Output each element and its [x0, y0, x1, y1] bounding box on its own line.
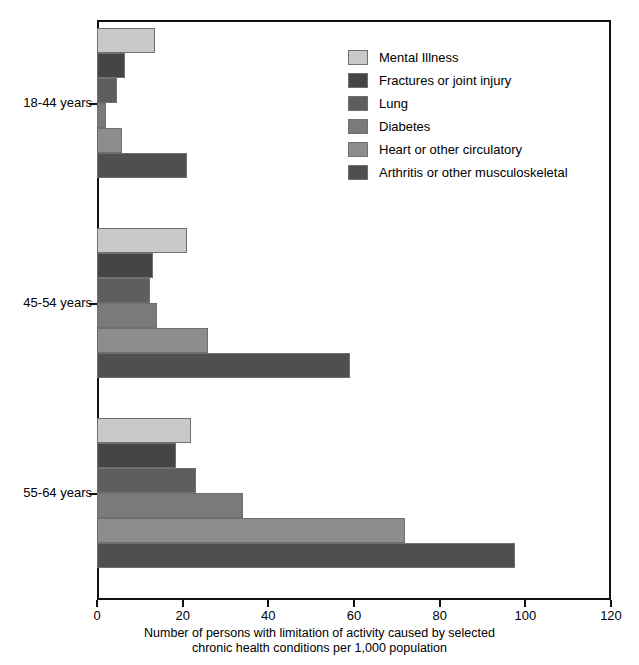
legend-swatch-icon [348, 96, 368, 111]
legend-item-label: Mental Illness [379, 50, 458, 65]
legend-item-label: Fractures or joint injury [379, 73, 511, 88]
x-axis-tick [353, 600, 355, 607]
bar [97, 493, 243, 518]
legend-swatch-icon [348, 119, 368, 134]
legend-item: Fractures or joint injury [348, 69, 568, 92]
x-axis-tick [267, 600, 269, 607]
legend-swatch-icon [348, 73, 368, 88]
x-axis-tick-label: 120 [591, 608, 631, 623]
x-axis-tick-label: 100 [505, 608, 545, 623]
y-axis-category-label: 45-54 years [0, 295, 92, 310]
bar-chart: 18-44 years45-54 years55-64 years 020406… [0, 0, 639, 665]
bar [97, 53, 125, 78]
bar [97, 468, 196, 493]
bar [97, 153, 187, 178]
legend-item: Lung [348, 92, 568, 115]
bar [97, 228, 187, 253]
legend-item-label: Arthritis or other musculoskeletal [379, 165, 568, 180]
bar [97, 418, 191, 443]
x-axis-tick [439, 600, 441, 607]
legend: Mental IllnessFractures or joint injuryL… [348, 46, 568, 184]
y-axis-category-label: 55-64 years [0, 485, 92, 500]
x-axis-tick [96, 600, 98, 607]
x-axis-tick-label: 40 [248, 608, 288, 623]
bar [97, 103, 106, 128]
legend-item-label: Heart or other circulatory [379, 142, 522, 157]
bar [97, 518, 405, 543]
y-axis-tick [89, 493, 97, 495]
bar [97, 543, 515, 568]
legend-swatch-icon [348, 142, 368, 157]
bar [97, 303, 157, 328]
y-axis-tick [89, 103, 97, 105]
bar [97, 128, 122, 153]
x-axis-tick [182, 600, 184, 607]
x-axis-caption-line-2: chronic health conditions per 1,000 popu… [0, 641, 639, 656]
legend-item: Arthritis or other musculoskeletal [348, 161, 568, 184]
x-axis-tick-label: 60 [334, 608, 374, 623]
bar [97, 278, 150, 303]
legend-item: Diabetes [348, 115, 568, 138]
bar [97, 353, 350, 378]
x-axis-tick-label: 20 [163, 608, 203, 623]
legend-item-label: Diabetes [379, 119, 430, 134]
x-axis-caption-line-1: Number of persons with limitation of act… [0, 626, 639, 641]
legend-swatch-icon [348, 165, 368, 180]
legend-item-label: Lung [379, 96, 408, 111]
legend-swatch-icon [348, 50, 368, 65]
bar [97, 328, 208, 353]
bar [97, 28, 155, 53]
x-axis-tick [524, 600, 526, 607]
bar [97, 443, 176, 468]
x-axis-tick [610, 600, 612, 607]
bar [97, 78, 117, 103]
y-axis-tick [89, 303, 97, 305]
x-axis-caption: Number of persons with limitation of act… [0, 626, 639, 656]
bar [97, 253, 153, 278]
legend-item: Heart or other circulatory [348, 138, 568, 161]
legend-item: Mental Illness [348, 46, 568, 69]
y-axis-category-label: 18-44 years [0, 95, 92, 110]
x-axis-tick-label: 80 [420, 608, 460, 623]
x-axis-tick-label: 0 [77, 608, 117, 623]
